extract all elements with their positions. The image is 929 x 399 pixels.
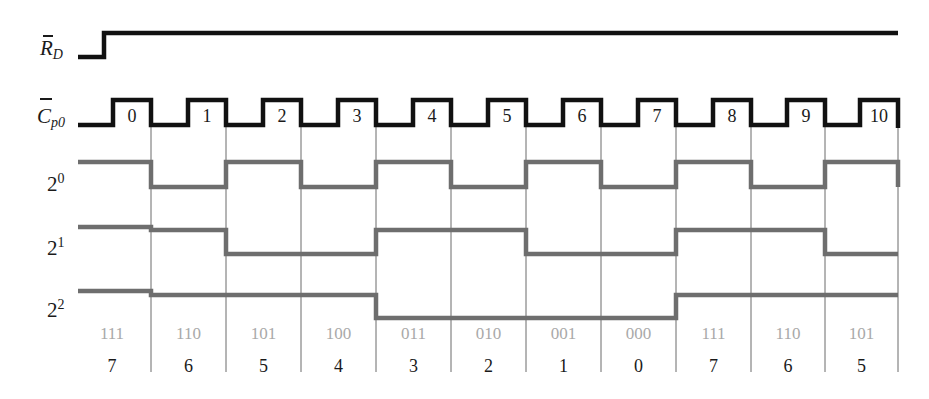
cp0-label-sub: p0	[51, 115, 65, 130]
q1-waveform	[78, 227, 898, 254]
binary-state: 111	[684, 325, 744, 342]
clock-pulse-number: 6	[567, 107, 597, 125]
decimal-state: 0	[619, 357, 659, 375]
q2-label-base: 2	[47, 298, 58, 322]
binary-state: 111	[82, 325, 142, 342]
binary-state: 001	[534, 325, 594, 342]
clock-pulse-number: 7	[642, 107, 672, 125]
clock-pulse-number: 3	[342, 107, 372, 125]
cp0-label-base: C	[37, 104, 51, 128]
clock-pulse-number: 1	[192, 107, 222, 125]
decimal-state: 7	[694, 357, 734, 375]
clock-pulse-number: 9	[791, 107, 821, 125]
rd-label-sub: D	[53, 47, 63, 62]
clock-pulse-number: 2	[267, 107, 297, 125]
binary-state: 011	[384, 325, 444, 342]
binary-state: 100	[309, 325, 369, 342]
rd-waveform	[78, 33, 898, 57]
q0-waveform	[78, 162, 898, 187]
binary-state: 101	[832, 325, 892, 342]
rd-label-base: R	[40, 36, 53, 60]
q1-label: 21	[47, 236, 65, 259]
decimal-state: 2	[469, 357, 509, 375]
binary-state: 110	[159, 325, 219, 342]
clock-pulse-number: 10	[864, 107, 894, 125]
cp0-overbar	[40, 98, 52, 100]
clock-pulse-number: 0	[117, 107, 147, 125]
binary-state: 010	[459, 325, 519, 342]
cp0-label: Cp0	[37, 106, 65, 130]
decimal-state: 6	[768, 357, 808, 375]
rd-overbar	[43, 35, 53, 37]
decimal-state: 4	[319, 357, 359, 375]
q0-label-sup: 0	[58, 171, 65, 186]
decimal-state: 5	[244, 357, 284, 375]
timing-diagram: RD Cp0 20 21 22 012345678910 11111010110…	[0, 0, 929, 399]
decimal-state: 6	[169, 357, 209, 375]
binary-state: 000	[609, 325, 669, 342]
binary-state: 110	[758, 325, 818, 342]
q1-label-base: 2	[47, 236, 58, 260]
decimal-state: 1	[544, 357, 584, 375]
rd-label: RD	[40, 38, 63, 62]
q0-label-base: 2	[47, 172, 58, 196]
q1-label-sup: 1	[58, 235, 65, 250]
decimal-state: 7	[92, 357, 132, 375]
clock-pulse-number: 5	[492, 107, 522, 125]
q2-label-sup: 2	[58, 297, 65, 312]
binary-state: 101	[234, 325, 294, 342]
decimal-state: 5	[842, 357, 882, 375]
clock-pulse-number: 8	[717, 107, 747, 125]
clock-pulse-number: 4	[417, 107, 447, 125]
decimal-state: 3	[394, 357, 434, 375]
q0-label: 20	[47, 172, 65, 195]
q2-label: 22	[47, 298, 65, 321]
q2-waveform	[78, 291, 898, 318]
